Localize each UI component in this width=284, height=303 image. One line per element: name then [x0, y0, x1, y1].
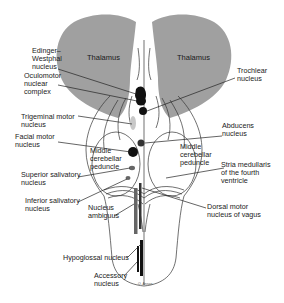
brainstem-diagram: Thalamus Thalamus Middle cerebellar pedu… — [0, 0, 284, 303]
svg-text:ambiguus: ambiguus — [88, 211, 120, 220]
svg-text:nucleus: nucleus — [94, 279, 119, 288]
oculomotor-nucleus — [136, 97, 146, 106]
svg-text:nucleus: nucleus — [237, 74, 262, 83]
hypoglossal-nucleus — [140, 240, 143, 276]
label-inferior-salivatory: Inferior salivatory nucleus — [25, 196, 80, 213]
svg-text:Hypoglossal nucleus: Hypoglossal nucleus — [63, 253, 129, 262]
leader-trigeminal — [78, 116, 132, 124]
label-superior-salivatory: Superior salivatory nucleus — [21, 170, 81, 187]
label-hypoglossal: Hypoglossal nucleus — [63, 253, 129, 262]
label-trochlear: Trochlear nucleus — [237, 66, 268, 83]
svg-text:nucleus: nucleus — [222, 129, 247, 138]
artist-signature: O. Ansan — [138, 282, 152, 286]
svg-text:nucleus: nucleus — [15, 140, 40, 149]
svg-text:nucleus: nucleus — [21, 178, 46, 187]
label-oculomotor: Oculomotor nuclear complex — [24, 71, 62, 96]
label-nucleus-ambiguus: Nucleus ambiguus — [88, 203, 120, 220]
svg-text:ventricle: ventricle — [221, 176, 248, 185]
svg-text:nucleus: nucleus — [21, 120, 46, 129]
label-edinger-westphal: Edinger– Westphal nucleus — [32, 46, 62, 71]
svg-text:nucleus of vagus: nucleus of vagus — [207, 210, 261, 219]
label-abducens: Abducens nucleus — [222, 121, 254, 138]
nucleus-ambiguus — [134, 188, 138, 234]
svg-text:nucleus: nucleus — [25, 204, 50, 213]
leader-stria-medullaris — [166, 168, 224, 178]
thalamus-right-shape — [152, 15, 231, 119]
label-facial-motor: Facial motor nucleus — [15, 132, 55, 149]
trigeminal-motor-nucleus — [130, 116, 136, 130]
accessory-nucleus — [137, 246, 139, 272]
thalamus-left-shape — [57, 15, 136, 119]
trochlear-nucleus — [139, 107, 147, 115]
dorsal-motor-nucleus-vagus — [139, 183, 142, 229]
label-accessory: Accessory nucleus — [94, 271, 128, 288]
svg-text:complex: complex — [24, 87, 51, 96]
svg-text:peduncle: peduncle — [90, 162, 119, 171]
svg-text:nucleus: nucleus — [32, 62, 57, 71]
label-dorsal-motor-vagus: Dorsal motor nucleus of vagus — [207, 202, 261, 219]
svg-text:peduncle: peduncle — [180, 158, 209, 167]
thalamus-right-label: Thalamus — [177, 53, 210, 62]
leader-dorsal-motor-vagus — [142, 188, 206, 208]
label-trigeminal-motor: Trigeminal motor nucleus — [21, 112, 75, 129]
mcp-right-label: Middle cerebellar peduncle — [180, 142, 212, 167]
thalamus-left-label: Thalamus — [87, 53, 120, 62]
label-stria-medullaris: Stria medullaris of the fourth ventricle — [221, 160, 271, 185]
abducens-nucleus — [138, 140, 145, 147]
inner-curve-right — [156, 96, 159, 128]
mcp-left-label: Middle cerebellar peduncle — [90, 146, 122, 171]
